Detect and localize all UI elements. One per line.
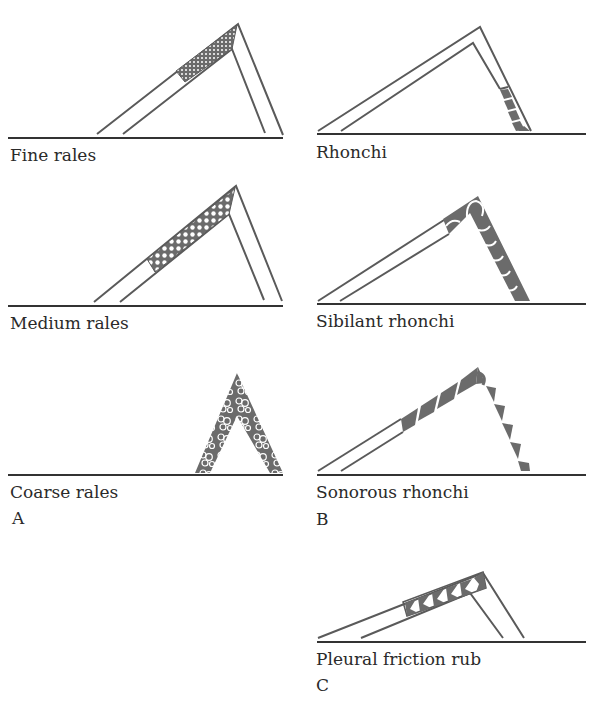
rhonchi-stripes [500,89,530,131]
label-fine-rales: Fine rales [10,145,96,165]
diagram-medium-rales [8,186,283,306]
label-rhonchi: Rhonchi [316,142,387,162]
medium-rales-fill [147,188,235,272]
label-medium-rales: Medium rales [10,313,129,333]
panel-letter-a: A [12,508,24,528]
auscultation-diagram-canvas [0,0,594,714]
diagram-pleural-friction-rub [317,572,586,642]
label-coarse-rales: Coarse rales [10,482,118,502]
label-sonorous-rhonchi: Sonorous rhonchi [316,482,469,502]
diagram-fine-rales [8,24,283,138]
label-sibilant-rhonchi: Sibilant rhonchi [316,311,454,331]
sonorous-wedges [401,367,530,471]
sibilant-fill [443,196,530,301]
diagram-sibilant-rhonchi [317,196,586,304]
diagram-sonorous-rhonchi [317,367,586,475]
friction-bowties [405,572,486,616]
diagram-coarse-rales [8,373,283,475]
label-pleural-friction-rub: Pleural friction rub [316,649,481,669]
panel-letter-b: B [316,509,329,529]
panel-letter-c: C [316,675,329,695]
coarse-rales-fill [195,373,283,473]
diagram-rhonchi [317,27,586,134]
